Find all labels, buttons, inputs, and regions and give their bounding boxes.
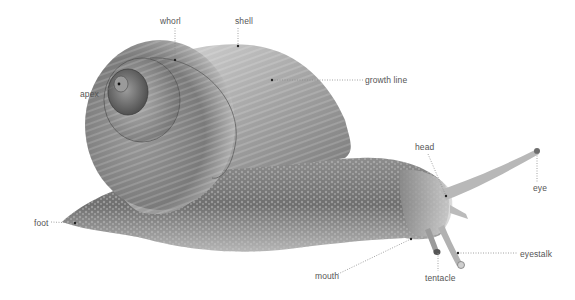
label-mouth: mouth xyxy=(315,271,339,281)
snail-illustration xyxy=(0,0,575,300)
label-apex: apex xyxy=(80,89,99,99)
label-shell: shell xyxy=(235,16,253,26)
label-head: head xyxy=(415,142,434,152)
label-tentacle: tentacle xyxy=(425,273,456,283)
label-foot: foot xyxy=(34,218,49,228)
label-whorl: whorl xyxy=(160,16,181,26)
leader-mouth xyxy=(338,239,411,274)
label-eye: eye xyxy=(533,183,547,193)
label-eyestalk: eyestalk xyxy=(520,249,552,259)
label-growth-line: growth line xyxy=(365,75,407,85)
